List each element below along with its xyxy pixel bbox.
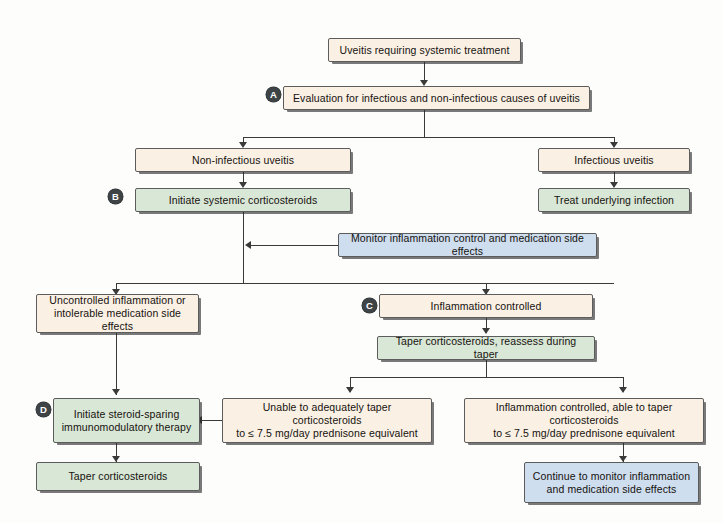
node-label: Monitor inflammation control and medicat…	[345, 232, 590, 258]
arrowhead-n9-n10	[482, 328, 490, 334]
node-continue-to-monitor[interactable]: Continue to monitor inflammation and med…	[524, 462, 699, 503]
node-initiate-systemic-corticosteroids[interactable]: Initiate systemic corticosteroids	[135, 188, 351, 212]
node-inflammation-controlled[interactable]: Inflammation controlled	[379, 294, 593, 318]
node-label: Non-infectious uveitis	[142, 154, 344, 167]
flowchart-canvas: Uveitis requiring systemic treatment A E…	[0, 0, 723, 523]
node-label-line2: to ≤ 7.5 mg/day prednisone equivalent	[229, 427, 425, 440]
node-evaluation-for-causes[interactable]: Evaluation for infectious and non-infect…	[283, 86, 590, 110]
node-label: Taper corticosteroids	[43, 470, 193, 483]
arrowhead-split-n12	[346, 387, 354, 393]
node-label: Taper corticosteroids, reassess during t…	[384, 335, 588, 361]
badge-a: A	[266, 87, 281, 102]
node-taper-corticosteroids[interactable]: Taper corticosteroids	[36, 462, 200, 491]
node-label-line2: and medication side effects	[531, 483, 692, 496]
connector-n10-split	[486, 360, 487, 378]
node-label-line1: Continue to monitor inflammation	[531, 470, 692, 483]
node-treat-underlying-infection[interactable]: Treat underlying infection	[538, 188, 690, 212]
connector-n2-split	[424, 110, 425, 138]
node-label-line1: Uncontrolled inflammation or	[43, 294, 192, 307]
badge-c: C	[362, 298, 377, 313]
node-taper-corticosteroids-reassess[interactable]: Taper corticosteroids, reassess during t…	[377, 336, 595, 360]
node-label: Uveitis requiring systemic treatment	[335, 44, 514, 57]
node-label-line1: Initiate steroid-sparing	[60, 408, 193, 421]
node-monitor-inflammation-control[interactable]: Monitor inflammation control and medicat…	[338, 233, 597, 257]
node-label-line1: Inflammation controlled, able to taper c…	[471, 401, 697, 427]
node-unable-to-taper[interactable]: Unable to adequately taper corticosteroi…	[222, 398, 432, 443]
split-bar-row2	[243, 137, 614, 138]
connector-n12-n11	[200, 420, 222, 421]
connector-n8-n11	[116, 333, 117, 395]
node-label: Initiate systemic corticosteroids	[142, 194, 344, 207]
node-uncontrolled-inflammation[interactable]: Uncontrolled inflammation or intolerable…	[36, 294, 199, 333]
node-initiate-steroid-sparing-therapy[interactable]: Initiate steroid-sparing immunomodulator…	[53, 398, 200, 443]
node-label-line2: intolerable medication side effects	[43, 307, 192, 333]
connector-n7-trunk	[249, 245, 338, 246]
arrowhead-n7-trunk	[245, 241, 251, 249]
badge-b: B	[108, 189, 123, 204]
badge-d: D	[36, 402, 51, 417]
split-bar-row3	[116, 283, 614, 284]
node-label-line2: immunomodulatory therapy	[60, 421, 193, 434]
node-label: Treat underlying infection	[545, 194, 683, 207]
node-label-line2: to ≤ 7.5 mg/day prednisone equivalent	[471, 427, 697, 440]
node-label-line1: Unable to adequately taper corticosteroi…	[229, 401, 425, 427]
node-inflammation-controlled-able-to-taper[interactable]: Inflammation controlled, able to taper c…	[464, 398, 704, 443]
arrowhead-split-n13	[619, 387, 627, 393]
node-label: Evaluation for infectious and non-infect…	[290, 92, 583, 105]
node-label: Infectious uveitis	[545, 154, 683, 167]
connector-n5-split	[243, 212, 244, 284]
node-infectious-uveitis[interactable]: Infectious uveitis	[538, 148, 690, 172]
split-bar-row4	[350, 377, 623, 378]
node-non-infectious-uveitis[interactable]: Non-infectious uveitis	[135, 148, 351, 172]
node-label: Inflammation controlled	[386, 300, 586, 313]
node-uveitis-requiring-systemic-treatment[interactable]: Uveitis requiring systemic treatment	[328, 38, 521, 62]
arrowhead-n8-n11	[112, 389, 120, 395]
